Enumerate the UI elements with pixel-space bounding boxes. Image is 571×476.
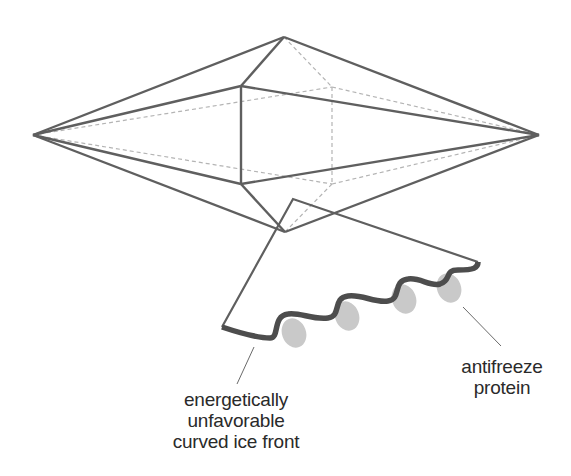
antifreeze-protein-label: antifreeze protein bbox=[448, 356, 556, 398]
crystal-edges bbox=[33, 37, 539, 232]
ice-front-label-line-3: curved ice front bbox=[168, 431, 304, 452]
hidden-edges bbox=[33, 37, 539, 232]
protein-label-line-2: protein bbox=[448, 377, 556, 398]
ice-front-label-line-2: unfavorable bbox=[168, 410, 304, 431]
ice-front-label: energetically unfavorable curved ice fro… bbox=[168, 389, 304, 452]
protein-1 bbox=[278, 315, 311, 351]
ice-front-label-line-1: energetically bbox=[168, 389, 304, 410]
protein-label-line-1: antifreeze bbox=[448, 356, 556, 377]
protein-leader-line bbox=[463, 307, 501, 346]
ice-front-leader-line bbox=[237, 347, 254, 384]
